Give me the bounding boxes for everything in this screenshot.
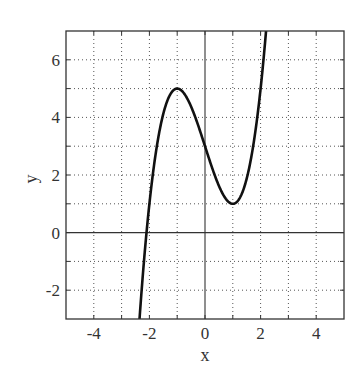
x-tick-label: 0 [201, 324, 210, 343]
x-tick-label: 2 [256, 324, 265, 343]
x-tick-label: 4 [312, 324, 321, 343]
chart: -4-2024 -20246 x y [0, 0, 363, 377]
x-axis-label: x [201, 345, 210, 365]
y-tick-label: 6 [52, 51, 61, 70]
y-tick-label: 0 [52, 224, 61, 243]
x-tick-labels: -4-2024 [87, 324, 321, 343]
y-tick-label: 2 [52, 166, 61, 185]
y-tick-label: -2 [46, 281, 60, 300]
y-tick-labels: -20246 [46, 51, 61, 300]
x-tick-label: -4 [87, 324, 102, 343]
y-axis-label: y [21, 175, 41, 184]
x-tick-label: -2 [142, 324, 156, 343]
y-tick-label: 4 [52, 108, 61, 127]
